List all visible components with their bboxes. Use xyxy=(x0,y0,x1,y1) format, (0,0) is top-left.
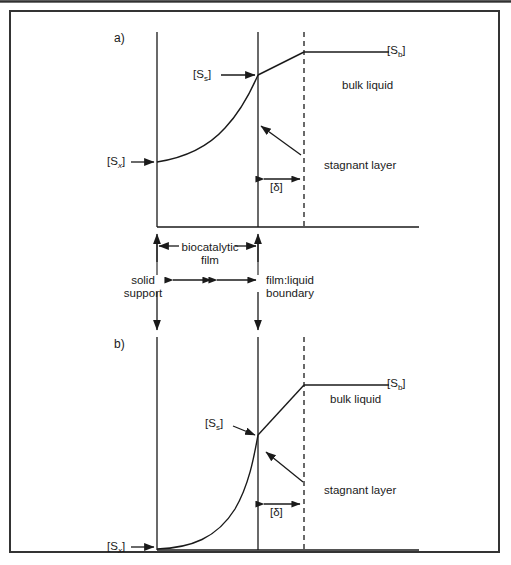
panel-b-ss-arrow xyxy=(233,426,255,435)
panel-b-inner-concentration-label: [Sx] xyxy=(107,540,125,554)
panel-a-bulk-liquid-label: bulk liquid xyxy=(342,79,393,93)
panel-b-stagnant-profile-line xyxy=(258,385,304,435)
panel-b-surface-concentration-label: [Ss] xyxy=(205,417,223,431)
panel-a-drawing xyxy=(131,32,419,227)
panel-a-delta-label: [δ] xyxy=(270,181,283,195)
panel-b-bulk-concentration-label: [Sb] xyxy=(387,377,406,391)
film-liquid-boundary-label-line2: boundary xyxy=(266,287,314,301)
solid-support-label-line2: support xyxy=(116,287,170,301)
biocatalytic-film-label-line1: biocatalytic xyxy=(179,241,241,255)
panel-a-stagnant-profile-line xyxy=(258,52,304,75)
biocatalytic-film-label-line2: film xyxy=(179,254,241,268)
film-liquid-boundary-label-line1: film:liquid xyxy=(266,274,314,288)
panel-a-tag: a) xyxy=(114,31,125,45)
scan-artifact-bar xyxy=(0,0,511,3)
panel-a-stagnant-layer-arrow xyxy=(261,126,301,155)
solid-support-label-line1: solid xyxy=(116,274,170,288)
panel-a-stagnant-layer-label: stagnant layer xyxy=(324,159,396,173)
panel-a-inner-concentration-label: [Sx] xyxy=(107,155,125,169)
panel-b-film-profile-curve xyxy=(157,435,258,549)
panel-b-bulk-liquid-label: bulk liquid xyxy=(330,393,381,407)
panel-b-stagnant-layer-arrow xyxy=(266,452,303,482)
figure-frame: a) [Sb] bulk liquid [Ss] [Sx] stagnant l… xyxy=(9,10,500,553)
panel-b-tag: b) xyxy=(114,337,125,351)
panel-a-bulk-concentration-label: [Sb] xyxy=(387,44,406,58)
panel-b-stagnant-layer-label: stagnant layer xyxy=(324,484,396,498)
panel-b-delta-label: [δ] xyxy=(270,506,283,520)
panel-a-surface-concentration-label: [Ss] xyxy=(193,68,211,82)
figure-drawing xyxy=(11,12,498,551)
panel-a-film-profile-curve xyxy=(157,75,258,162)
